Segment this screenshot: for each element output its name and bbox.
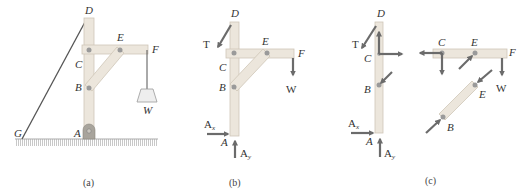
label-d: D <box>230 7 239 19</box>
pin-e <box>473 83 478 88</box>
label-e: E <box>261 35 269 47</box>
label-ax: Ax <box>348 117 360 131</box>
pin-b <box>441 115 446 120</box>
label-g: G <box>14 127 22 139</box>
label-f: F <box>151 43 159 55</box>
label-b: B <box>219 81 226 93</box>
label-a: A <box>220 136 228 148</box>
force-t-arrow <box>362 26 376 48</box>
label-e: E <box>470 36 478 48</box>
label-c: C <box>219 61 227 73</box>
label-ay: Ay <box>384 147 396 161</box>
label-w: W <box>496 82 507 94</box>
pin-e <box>265 51 270 56</box>
ground-hatch <box>15 139 158 146</box>
weight-block <box>137 89 157 102</box>
pin-c <box>87 48 92 53</box>
label-f: F <box>297 47 305 59</box>
caption-c: (c) <box>425 175 436 187</box>
force-e-arrow <box>478 70 492 82</box>
pin-a <box>87 129 91 133</box>
label-c: C <box>75 58 83 70</box>
label-c: C <box>364 52 372 64</box>
label-w: W <box>286 83 297 95</box>
label-d: D <box>376 7 385 19</box>
caption-b: (b) <box>229 177 241 189</box>
label-t: T <box>352 38 359 50</box>
pin-c <box>232 51 237 56</box>
label-b2: B <box>447 121 454 133</box>
force-t-arrow <box>218 25 231 47</box>
pin-e <box>118 48 123 53</box>
label-ay: Ay <box>240 147 252 161</box>
member-be <box>439 81 478 120</box>
pin-b <box>87 86 92 91</box>
panel-b: D T E F C B W Ax A Ay (b) <box>203 7 305 189</box>
label-b: B <box>75 81 82 93</box>
label-w: W <box>143 104 153 116</box>
pin-b <box>377 83 382 88</box>
label-d: D <box>84 4 93 16</box>
force-b-arrow <box>426 120 440 133</box>
label-ax: Ax <box>204 118 216 132</box>
label-t: T <box>203 38 210 50</box>
pin-e <box>473 51 478 56</box>
label-e: E <box>116 31 124 43</box>
frame-free-body-diagrams: D E F C B W G A (a) D T E F C B W Ax A A… <box>0 0 523 195</box>
pin-b <box>232 85 237 90</box>
panel-a: D E F C B W G A (a) <box>14 4 159 189</box>
label-f: F <box>508 46 516 58</box>
label-e2: E <box>478 88 486 100</box>
panel-c: D T C B Ax A Ay C E F W E B (c) <box>348 7 516 187</box>
caption-a: (a) <box>83 177 94 189</box>
label-a: A <box>365 135 373 147</box>
label-c2: C <box>438 36 446 48</box>
label-b: B <box>364 83 371 95</box>
label-a: A <box>73 127 81 139</box>
